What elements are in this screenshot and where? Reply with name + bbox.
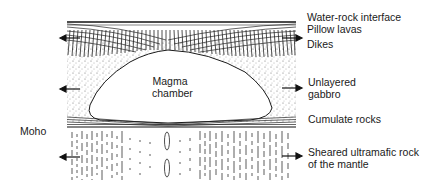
arrow-right-icon [296,35,302,41]
label-unlayered-gabbro: Unlayered gabbro [308,76,356,100]
melt-lens-lower [165,159,170,177]
label-mantle-line2: of the mantle [308,158,419,170]
magma-chamber-label-line2: chamber [152,87,188,99]
moho-label: Moho [20,125,46,137]
magma-chamber-label-line1: Magma [152,75,188,87]
label-cumulate-rocks: Cumulate rocks [308,113,381,125]
arrow-left-icon [60,154,66,160]
label-gabbro-line1: Unlayered [308,76,356,88]
sheared-mantle-layer [72,131,288,180]
label-dikes: Dikes [307,38,333,50]
label-water-rock-interface: Water-rock interface [307,11,401,23]
label-gabbro-line2: gabbro [308,88,356,100]
label-mantle-line1: Sheared ultramafic rock [308,146,419,158]
arrow-left-icon [60,86,66,92]
arrow-right-icon [296,153,302,159]
arrow-left-icon [60,35,66,41]
magma-chamber-label: Magma chamber [152,75,188,99]
label-pillow-lavas: Pillow lavas [307,23,362,35]
label-sheared-mantle: Sheared ultramafic rock of the mantle [308,146,419,170]
melt-lens-upper [165,132,170,150]
arrow-right-icon [296,85,302,91]
